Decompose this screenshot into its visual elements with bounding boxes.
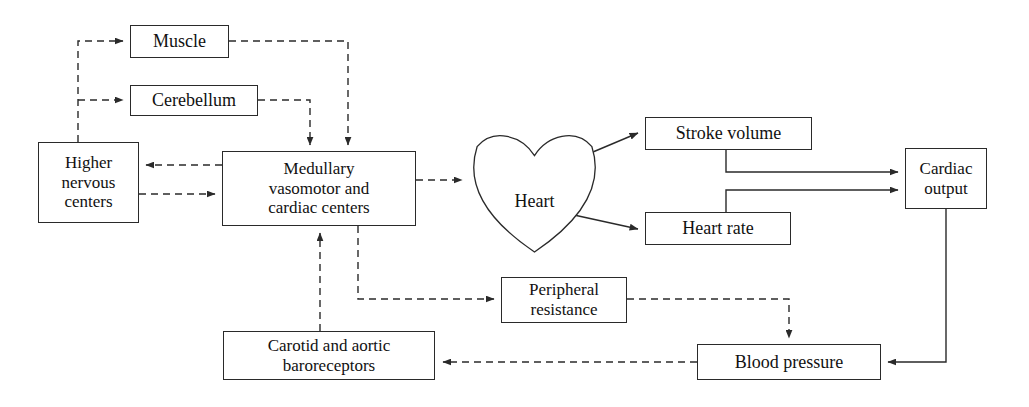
- edge-peripheral-to-blood-pressure: [627, 299, 789, 338]
- node-heart: Heart: [470, 133, 599, 252]
- node-label-stroke_volume: Stroke volume: [676, 123, 782, 144]
- node-label-peripheral: Peripheral resistance: [529, 280, 599, 319]
- node-label-higher: Higher nervous centers: [62, 153, 116, 212]
- cardiovascular-control-diagram: MuscleCerebellumHigher nervous centersMe…: [0, 0, 1029, 407]
- node-cardiac_output: Cardiac output: [905, 148, 987, 209]
- node-label-medullary: Medullary vasomotor and cardiac centers: [268, 159, 369, 218]
- node-heart_rate: Heart rate: [645, 212, 791, 245]
- node-label-heart_rate: Heart rate: [682, 218, 753, 239]
- node-baroreceptors: Carotid and aortic baroreceptors: [223, 331, 435, 380]
- edge-stroke-volume-to-output: [726, 150, 898, 172]
- node-blood_pressure: Blood pressure: [697, 344, 881, 380]
- node-label-baroreceptors: Carotid and aortic baroreceptors: [268, 336, 391, 375]
- edge-heart-rate-to-output: [726, 190, 898, 212]
- node-label-blood_pressure: Blood pressure: [735, 352, 843, 373]
- node-label-muscle: Muscle: [153, 31, 206, 52]
- node-stroke_volume: Stroke volume: [645, 117, 812, 150]
- node-label-cardiac_output: Cardiac output: [920, 159, 973, 198]
- edge-higher-to-muscle: [78, 41, 123, 142]
- node-cerebellum: Cerebellum: [130, 85, 258, 116]
- edge-cerebellum-to-medullary: [258, 100, 310, 145]
- edge-output-to-blood-pressure: [888, 209, 946, 362]
- node-muscle: Muscle: [130, 25, 229, 58]
- node-label-heart: Heart: [515, 191, 555, 212]
- node-medullary: Medullary vasomotor and cardiac centers: [222, 151, 416, 226]
- node-higher: Higher nervous centers: [38, 142, 139, 223]
- node-label-cerebellum: Cerebellum: [152, 90, 236, 111]
- node-peripheral: Peripheral resistance: [501, 277, 627, 323]
